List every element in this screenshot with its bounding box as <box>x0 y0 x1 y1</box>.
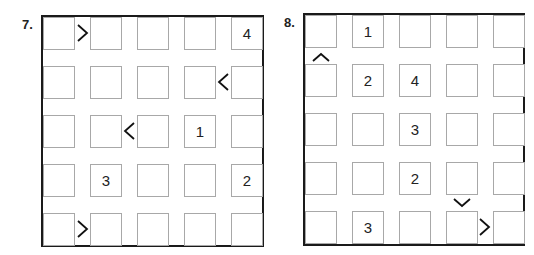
p7-cell-r0c0[interactable] <box>43 17 75 50</box>
less-than-icon <box>121 121 137 141</box>
p7-cell-r1c0[interactable] <box>43 66 75 99</box>
p8-cell-r4c0[interactable] <box>305 211 337 244</box>
p7-cell-r4c2[interactable] <box>137 213 169 246</box>
p7-cell-r4c3[interactable] <box>184 213 216 246</box>
p7-cell-r4c0[interactable] <box>43 213 75 246</box>
p7-cell-r4c4[interactable] <box>231 213 263 246</box>
p7-cell-r3c4[interactable]: 2 <box>231 164 263 197</box>
p8-cell-r1c3[interactable] <box>446 64 478 97</box>
p8-cell-r0c3[interactable] <box>446 15 478 48</box>
p8-cell-r3c0[interactable] <box>305 162 337 195</box>
p8-cell-r1c4[interactable] <box>493 64 525 97</box>
p8-cell-r1c1[interactable]: 2 <box>352 64 384 97</box>
p7-cell-r2c4[interactable] <box>231 115 263 148</box>
p8-cell-r1c2[interactable]: 4 <box>399 64 431 97</box>
p7-cell-r3c3[interactable] <box>184 164 216 197</box>
p8-cell-r4c2[interactable] <box>399 211 431 244</box>
p8-cell-r4c4[interactable] <box>493 211 525 244</box>
p7-cell-r3c2[interactable] <box>137 164 169 197</box>
puzzle-7-number: 7. <box>22 17 33 32</box>
p7-cell-r0c1[interactable] <box>90 17 122 50</box>
greater-than-icon <box>75 219 91 239</box>
p7-cell-r3c1[interactable]: 3 <box>90 164 122 197</box>
p7-cell-r1c3[interactable] <box>184 66 216 99</box>
p8-cell-r3c3[interactable] <box>446 162 478 195</box>
p7-cell-r2c3[interactable]: 1 <box>184 115 216 148</box>
p8-cell-r2c4[interactable] <box>493 113 525 146</box>
p8-cell-r0c4[interactable] <box>493 15 525 48</box>
p8-cell-r2c3[interactable] <box>446 113 478 146</box>
greater-than-icon <box>477 217 493 237</box>
p8-cell-r4c3[interactable] <box>446 211 478 244</box>
greater-than-icon <box>75 23 91 43</box>
puzzle-8-number: 8. <box>284 15 295 30</box>
p8-cell-r0c2[interactable] <box>399 15 431 48</box>
down-caret-icon <box>452 196 472 210</box>
p7-cell-r0c4[interactable]: 4 <box>231 17 263 50</box>
p7-cell-r2c2[interactable] <box>137 115 169 148</box>
p7-cell-r0c3[interactable] <box>184 17 216 50</box>
p8-cell-r3c2[interactable]: 2 <box>399 162 431 195</box>
p8-cell-r3c4[interactable] <box>493 162 525 195</box>
p7-cell-r1c2[interactable] <box>137 66 169 99</box>
p7-cell-r2c0[interactable] <box>43 115 75 148</box>
p8-cell-r0c0[interactable] <box>305 15 337 48</box>
up-caret-icon <box>311 50 331 64</box>
p8-cell-r2c1[interactable] <box>352 113 384 146</box>
p7-cell-r3c0[interactable] <box>43 164 75 197</box>
p8-cell-r1c0[interactable] <box>305 64 337 97</box>
p8-cell-r2c0[interactable] <box>305 113 337 146</box>
p7-cell-r1c4[interactable] <box>231 66 263 99</box>
p8-cell-r3c1[interactable] <box>352 162 384 195</box>
p7-cell-r0c2[interactable] <box>137 17 169 50</box>
p8-cell-r2c2[interactable]: 3 <box>399 113 431 146</box>
p7-cell-r2c1[interactable] <box>90 115 122 148</box>
p7-cell-r1c1[interactable] <box>90 66 122 99</box>
p7-cell-r4c1[interactable] <box>90 213 122 246</box>
p8-cell-r0c1[interactable]: 1 <box>352 15 384 48</box>
p8-cell-r4c1[interactable]: 3 <box>352 211 384 244</box>
less-than-icon <box>215 72 231 92</box>
